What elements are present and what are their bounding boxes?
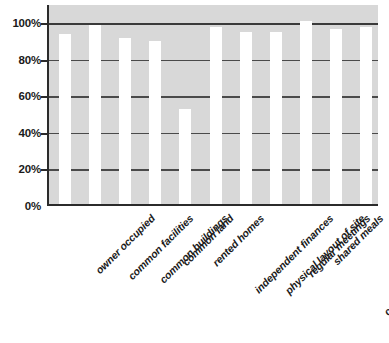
plot-area: [47, 5, 378, 206]
bar: [89, 25, 101, 204]
x-axis-category-labels: owner occupiedcommon facilitiescommon bu…: [0, 206, 389, 331]
bar: [300, 21, 312, 204]
bar: [210, 27, 222, 204]
bar: [119, 38, 131, 204]
y-tick-label-20: 20%: [19, 163, 41, 175]
y-tick-label-60: 60%: [19, 90, 41, 102]
y-tick-label-40: 40%: [19, 127, 41, 139]
bar: [240, 32, 252, 204]
bar: [149, 41, 161, 204]
bar: [270, 32, 282, 204]
bar: [330, 29, 342, 204]
bar-series: [49, 5, 378, 204]
bar: [179, 109, 191, 204]
bar: [360, 27, 372, 204]
y-tick-label-80: 80%: [19, 54, 41, 66]
y-axis-tick-labels: 0%20%40%60%80%100%: [0, 0, 44, 212]
bar: [59, 34, 71, 204]
bar-chart-figure: 0%20%40%60%80%100% owner occupiedcommon …: [0, 0, 389, 343]
x-tick-label: consensus decision making: [381, 212, 389, 318]
y-tick-label-100: 100%: [12, 17, 41, 29]
